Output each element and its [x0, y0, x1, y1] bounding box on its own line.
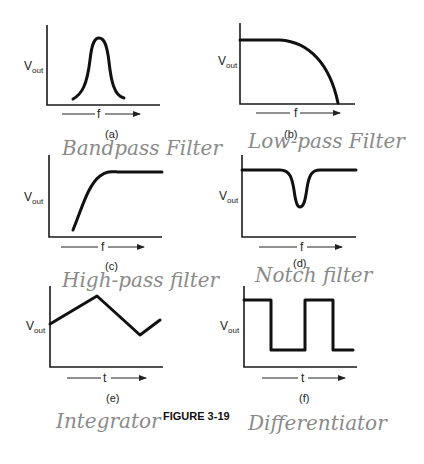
svg-text:Vout: Vout: [26, 319, 46, 335]
curve-bandpass: [73, 38, 124, 99]
panel-a: Vout f (a) Bandpass Filter: [24, 25, 223, 160]
ysub-b: out: [226, 61, 238, 70]
curve-square: [244, 300, 353, 350]
annotation-c: High-pass filter: [61, 268, 221, 292]
panel-b: Vout f (b) Low-pass Filter: [218, 23, 406, 153]
svg-text:Vout: Vout: [24, 190, 44, 206]
svg-text:Vout: Vout: [218, 54, 238, 70]
panel-d: Vout f (d) Notch filter: [219, 155, 374, 287]
curve-lowpass: [240, 40, 338, 103]
panel-c: Vout f (c) High-pass filter: [24, 155, 221, 292]
annotation-e: Integrator: [55, 409, 162, 433]
axes-d: [242, 155, 356, 237]
svg-text:Vout: Vout: [219, 189, 239, 205]
annotation-b: Low-pass Filter: [247, 129, 406, 153]
ylabel-d: V: [219, 189, 227, 203]
curve-notch: [242, 170, 356, 207]
figure-canvas: Vout f (a) Bandpass Filter Vout f (b) Lo…: [0, 0, 424, 464]
ysub-c: out: [32, 197, 44, 206]
axes-c: [49, 155, 162, 237]
curve-triangle: [50, 296, 160, 335]
ylabel-f: V: [220, 319, 228, 333]
axes-b: [240, 23, 355, 104]
axes-a: [47, 25, 160, 105]
annotation-a: Bandpass Filter: [61, 136, 223, 160]
axes-e: [50, 286, 163, 367]
ysub-d: out: [227, 196, 239, 205]
ysub-f: out: [228, 326, 240, 335]
ylabel-a: V: [24, 59, 32, 73]
panel-e: Vout t (e) Integrator: [26, 286, 163, 433]
ysub-e: out: [34, 326, 46, 335]
curve-highpass: [73, 172, 162, 230]
ylabel-e: V: [26, 319, 34, 333]
annotation-f: Differentiator: [247, 411, 388, 435]
caption-e: (e): [106, 392, 119, 404]
ysub-a: out: [32, 66, 44, 75]
caption-f: (f): [299, 392, 309, 404]
svg-text:Vout: Vout: [24, 59, 44, 75]
axes-f: [244, 286, 357, 367]
ylabel-b: V: [218, 54, 226, 68]
svg-text:Vout: Vout: [220, 319, 240, 335]
figure-label: FIGURE 3-19: [163, 410, 230, 422]
annotation-d: Notch filter: [254, 263, 374, 287]
panel-f: Vout t (f) Differentiator: [220, 286, 388, 435]
ylabel-c: V: [24, 190, 32, 204]
